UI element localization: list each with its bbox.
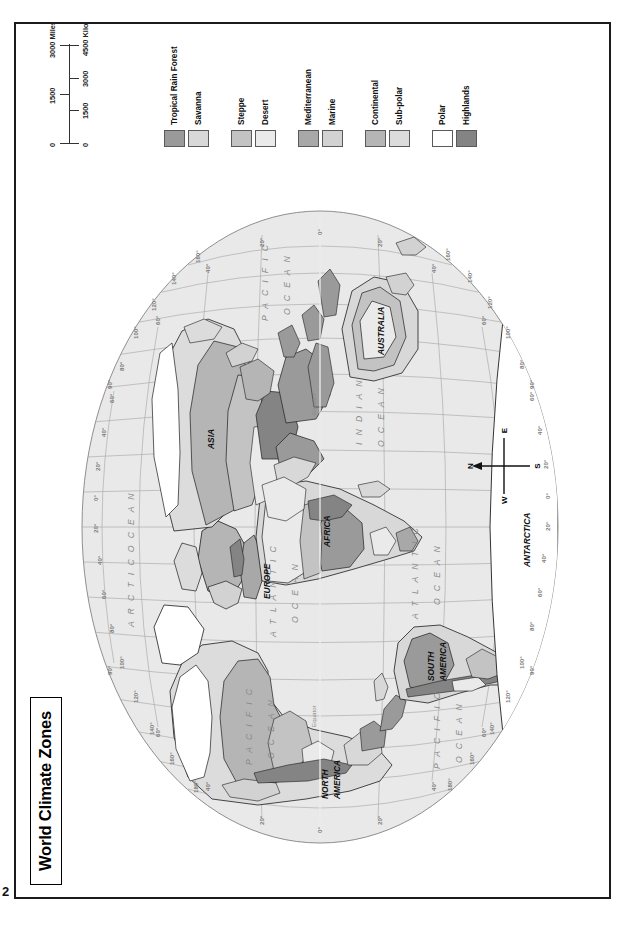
svg-text:120°: 120°	[486, 296, 493, 309]
continent-label-antarctica: ANTARCTICA	[522, 513, 532, 568]
ocean-label-indian: I N D I A N	[354, 378, 364, 445]
rotated-plate-wrapper: World Climate Zones	[14, 22, 611, 899]
legend-item-steppe[interactable]: Steppe	[231, 27, 252, 147]
legend-label-continental: Continental	[371, 80, 380, 125]
scale-label-miles-unit: 3000 Miles	[48, 22, 57, 58]
scale-tick-km-3000	[70, 78, 79, 79]
legend-item-polar[interactable]: Polar	[432, 27, 453, 147]
svg-text:180°: 180°	[446, 778, 453, 791]
legend-item-continental[interactable]: Continental	[365, 27, 386, 147]
svg-text:100°: 100°	[118, 656, 125, 669]
legend-label-savanna: Savanna	[194, 91, 203, 125]
svg-text:40°: 40°	[96, 555, 103, 565]
svg-text:20°: 20°	[376, 815, 383, 825]
ocean-label-pacific-east: P A C I F I C	[432, 691, 442, 769]
svg-text:140°: 140°	[488, 722, 495, 735]
scale-label-km-unit: 4500 Kilometers	[81, 22, 90, 56]
svg-text:20°: 20°	[542, 459, 549, 469]
svg-text:60°: 60°	[528, 391, 535, 401]
legend-swatch-highlands	[456, 130, 477, 147]
legend-item-tropical-rain-forest[interactable]: Tropical Rain Forest	[164, 27, 185, 147]
svg-text:100°: 100°	[504, 326, 511, 339]
continent-label-north-america: NORTH	[320, 768, 330, 799]
ocean-label-pacific-far-2: O C E A N	[282, 254, 292, 315]
legend-item-marine[interactable]: Marine	[322, 27, 343, 147]
ocean-label-pacific-east-2: O C E A N	[454, 702, 464, 763]
scale-tick-km-4500	[70, 45, 79, 46]
legend-label-tropical-rain-forest: Tropical Rain Forest	[170, 46, 179, 125]
svg-text:40°: 40°	[204, 781, 211, 791]
scale-tick-km-0	[70, 143, 79, 144]
continent-label-africa: AFRICA	[322, 515, 332, 548]
svg-text:40°: 40°	[204, 263, 211, 273]
svg-text:40°: 40°	[540, 553, 547, 563]
svg-text:80°: 80°	[528, 621, 535, 631]
legend-swatch-mediterranean	[298, 130, 319, 147]
legend-label-sub-polar: Sub-polar	[395, 87, 404, 125]
legend-swatch-continental	[365, 130, 386, 147]
page-title: World Climate Zones	[36, 711, 55, 871]
page-title-box: World Climate Zones	[30, 697, 62, 885]
scale-label-km-0: 0	[81, 143, 90, 147]
svg-text:60°: 60°	[480, 727, 487, 737]
page-root: 2 World Climate Zones	[0, 0, 625, 925]
continent-label-south-america-2: AMERICA	[438, 642, 448, 682]
compass-label-east: E	[500, 428, 509, 433]
svg-text:160°: 160°	[468, 752, 475, 765]
legend-item-desert[interactable]: Desert	[255, 27, 276, 147]
svg-text:40°: 40°	[430, 263, 437, 273]
compass-label-south: S	[533, 463, 542, 468]
legend-swatch-steppe	[231, 130, 252, 147]
scale-bar: 0 1500 3000 Miles 0 1500 3000 4500 Kilom…	[54, 34, 100, 144]
legend-item-highlands[interactable]: Highlands	[456, 27, 477, 147]
svg-text:90°: 90°	[528, 665, 535, 675]
scale-tick-km-1500	[70, 110, 79, 111]
legend-label-mediterranean: Mediterranean	[304, 69, 313, 125]
legend-item-savanna[interactable]: Savanna	[188, 27, 209, 147]
svg-text:120°: 120°	[132, 690, 139, 703]
legend-item-sub-polar[interactable]: Sub-polar	[389, 27, 410, 147]
svg-text:20°: 20°	[544, 521, 551, 531]
svg-text:80°: 80°	[518, 359, 525, 369]
continent-label-asia: ASIA	[206, 429, 216, 450]
scale-label-miles-1500: 1500	[48, 88, 57, 104]
legend-group-cold: Continental Sub-polar	[365, 27, 410, 147]
scale-tick-miles-0	[60, 143, 69, 144]
legend-group-polar: Polar Highlands	[432, 27, 477, 147]
compass-label-north: N	[466, 463, 475, 469]
svg-text:90°: 90°	[106, 665, 113, 675]
svg-text:80°: 80°	[118, 361, 125, 371]
legend-group-temperate: Mediterranean Marine	[298, 27, 343, 147]
svg-text:20°: 20°	[92, 523, 99, 533]
svg-text:0°: 0°	[92, 495, 99, 501]
ocean-label-atlantic-north-2: O C E A N	[290, 562, 300, 623]
svg-text:60°: 60°	[536, 587, 543, 597]
svg-text:90°: 90°	[528, 379, 535, 389]
svg-text:20°: 20°	[94, 461, 101, 471]
continent-label-north-america-2: AMERICA	[332, 760, 342, 800]
scale-tick-miles-1500	[60, 94, 69, 95]
svg-text:40°: 40°	[100, 427, 107, 437]
svg-text:120°: 120°	[150, 298, 157, 311]
svg-text:160°: 160°	[194, 250, 201, 263]
legend-label-polar: Polar	[438, 105, 447, 125]
svg-text:160°: 160°	[444, 248, 451, 261]
legend-swatch-polar	[432, 130, 453, 147]
svg-text:100°: 100°	[132, 326, 139, 339]
world-climate-map: P A C I F I C O C E A N P A C I F I C O …	[62, 177, 582, 877]
svg-text:140°: 140°	[466, 270, 473, 283]
svg-text:60°: 60°	[154, 315, 161, 325]
legend-item-mediterranean[interactable]: Mediterranean	[298, 27, 319, 147]
continent-label-europe: EUROPE	[262, 563, 272, 599]
ocean-label-pacific-far: P A C I F I C	[260, 243, 270, 321]
compass-label-west: W	[500, 496, 509, 504]
svg-text:20°: 20°	[376, 237, 383, 247]
ocean-label-pacific-west-2: O C E A N	[266, 698, 276, 759]
scale-label-km-1500: 1500	[81, 103, 90, 119]
svg-text:100°: 100°	[518, 656, 525, 669]
page-number: 2	[2, 884, 9, 899]
legend-label-desert: Desert	[261, 100, 270, 126]
svg-text:90°: 90°	[106, 379, 113, 389]
legend-label-highlands: Highlands	[462, 85, 471, 125]
svg-text:20°: 20°	[258, 815, 265, 825]
